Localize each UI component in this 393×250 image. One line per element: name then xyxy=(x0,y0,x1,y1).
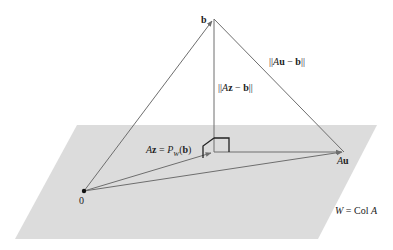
label-plane-w-col-a: W = Col A xyxy=(335,206,377,216)
label-norm-au-b: ||Au − b|| xyxy=(269,57,305,67)
label-b: b xyxy=(201,15,207,25)
label-az-projection: Az = PW(b) xyxy=(146,145,191,158)
origin-dot xyxy=(82,189,86,193)
plane-w xyxy=(15,125,377,239)
label-origin: 0 xyxy=(79,196,84,206)
label-norm-az-b: ||Az − b|| xyxy=(218,83,253,93)
label-au: Au xyxy=(337,156,349,166)
